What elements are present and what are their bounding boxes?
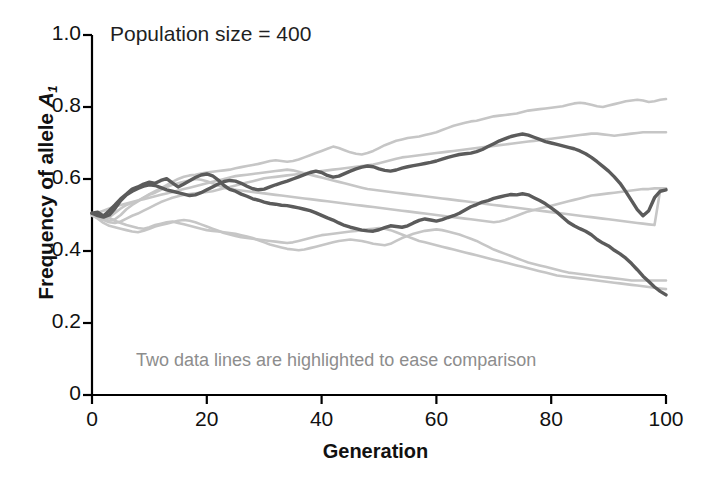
x-tick-label: 100 [631,407,701,431]
x-tick-label: 80 [516,407,586,431]
y-tick-label: 0.6 [11,165,81,189]
data-line-replicate-3 [92,99,666,221]
x-tick-label: 60 [401,407,471,431]
data-line-replicate-2 [92,134,666,217]
x-tick-label: 20 [172,407,242,431]
data-line-replicate-4 [92,132,666,223]
y-tick-label: 0.8 [11,93,81,117]
x-axis-label: Generation [0,440,703,463]
y-tick-label: 0.2 [11,309,81,333]
highlight-note-annotation: Two data lines are highlighted to ease c… [136,350,536,371]
y-tick-label: 0.4 [11,237,81,261]
population-size-annotation: Population size = 400 [110,22,311,46]
y-axis-label-subscript: 1 [45,86,60,93]
y-axis-label-text: Frequency of allele [34,108,57,300]
x-axis-label-text: Generation [323,440,429,462]
y-tick-label: 0 [11,381,81,405]
genetic-drift-chart: Frequency of allele A1 Generation Popula… [0,0,703,477]
chart-plot-area [0,0,703,477]
y-tick-label: 1.0 [11,21,81,45]
data-line-replicate-8 [92,214,666,281]
data-line-replicate-6 [92,215,666,289]
x-tick-label: 40 [287,407,357,431]
x-tick-label: 0 [57,407,127,431]
